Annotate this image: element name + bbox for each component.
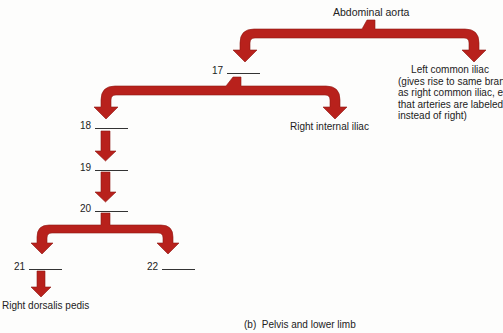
right-internal-iliac-label: Right internal iliac — [290, 121, 369, 133]
blank-20: 20 — [80, 202, 128, 215]
common-iliac-split-arrow — [94, 77, 347, 119]
blank-18: 18 — [80, 119, 128, 132]
right-dorsalis-pedis-label: Right dorsalis pedis — [2, 300, 89, 312]
left-common-iliac-block: Left common iliac (gives rise to same br… — [398, 64, 502, 122]
blank-17-number: 17 — [212, 65, 223, 76]
aorta-split-arrow — [233, 20, 486, 62]
left-common-iliac-label: Left common iliac — [398, 64, 502, 76]
abdominal-aorta-label: Abdominal aorta — [333, 6, 409, 18]
left-common-iliac-note-line: as right common iliac, except — [398, 87, 502, 99]
arrow-19-to-20 — [95, 172, 116, 202]
blank-21: 21 — [14, 260, 62, 273]
blank-19: 19 — [80, 161, 128, 174]
femoral-split-arrow — [31, 213, 179, 254]
answer-blank-19[interactable] — [95, 161, 128, 171]
answer-blank-20[interactable] — [95, 202, 128, 212]
left-common-iliac-note-line: (gives rise to same branches — [398, 76, 502, 88]
arrow-18-to-19 — [95, 131, 116, 161]
answer-blank-18[interactable] — [95, 119, 128, 129]
arrow-diagram — [0, 0, 503, 333]
answer-blank-17[interactable] — [227, 64, 260, 74]
blank-21-number: 21 — [14, 261, 25, 272]
arrow-21-to-dorsalis-pedis — [31, 271, 51, 297]
blank-17: 17 — [212, 64, 260, 77]
left-common-iliac-note-line: that arteries are labeled left — [398, 99, 502, 111]
blank-22: 22 — [147, 260, 195, 273]
blank-19-number: 19 — [80, 162, 91, 173]
blank-22-number: 22 — [147, 261, 158, 272]
blank-20-number: 20 — [80, 203, 91, 214]
blank-18-number: 18 — [80, 120, 91, 131]
figure-caption: (b) Pelvis and lower limb — [244, 319, 356, 331]
left-common-iliac-note-line: instead of right) — [398, 110, 502, 122]
answer-blank-21[interactable] — [29, 260, 62, 270]
answer-blank-22[interactable] — [162, 260, 195, 270]
